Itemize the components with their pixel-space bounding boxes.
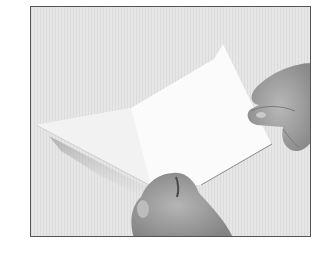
folding-paper-photo [31,7,311,237]
photo-frame [30,6,311,237]
